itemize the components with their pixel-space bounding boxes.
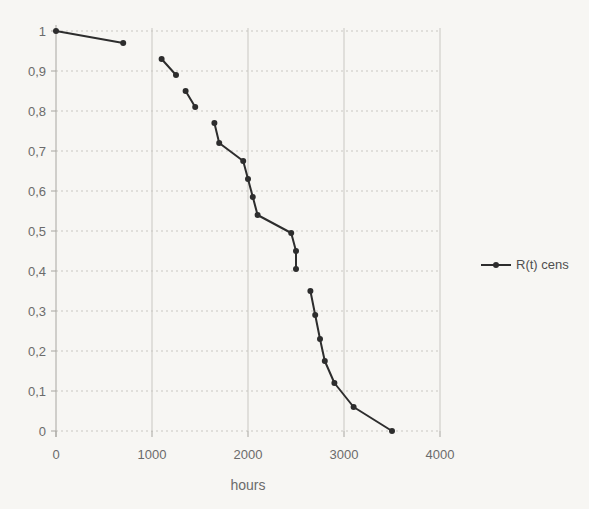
data-point-marker [53,28,59,34]
y-tick-label: 0,8 [28,104,46,119]
data-point-marker [216,140,222,146]
plot-canvas: 00,10,20,30,40,50,60,70,80,9101000200030… [0,0,589,509]
series-segment [56,31,123,43]
y-tick-label: 0,9 [28,64,46,79]
y-tick-label: 1 [39,24,46,39]
y-tick-label: 0,6 [28,184,46,199]
x-tick-label: 0 [52,447,59,462]
x-tick-label: 4000 [426,447,455,462]
data-point-marker [389,428,395,434]
gridlines [56,28,440,431]
data-point-marker [255,212,261,218]
y-tick-label: 0,4 [28,264,46,279]
y-tick-label: 0,3 [28,304,46,319]
data-point-marker [288,230,294,236]
data-point-marker [351,404,357,410]
data-point-marker [192,104,198,110]
data-point-marker [312,312,318,318]
series-segment [162,59,176,75]
data-point-marker [331,380,337,386]
reliability-chart-figure: 00,10,20,30,40,50,60,70,80,9101000200030… [0,0,589,509]
x-axis-title: hours [56,477,440,493]
data-point-marker [211,120,217,126]
y-tick-label: 0,7 [28,144,46,159]
data-point-marker [307,288,313,294]
legend: R(t) cens [481,257,569,272]
data-point-marker [245,176,251,182]
tick-labels: 00,10,20,30,40,50,60,70,80,9101000200030… [28,24,455,463]
legend-series-label: R(t) cens [516,257,569,272]
data-point-marker [240,158,246,164]
data-point-marker [317,336,323,342]
data-point-marker [120,40,126,46]
page: { "chart_data": { "type": "line", "title… [0,0,589,509]
y-tick-label: 0,2 [28,344,46,359]
data-point-marker [173,72,179,78]
data-point-marker [322,358,328,364]
y-tick-label: 0,1 [28,384,46,399]
x-tick-label: 2000 [234,447,263,462]
data-point-marker [159,56,165,62]
data-point-marker [250,194,256,200]
data-point-marker [293,266,299,272]
x-tick-label: 1000 [138,447,167,462]
x-tick-label: 3000 [330,447,359,462]
y-tick-label: 0,5 [28,224,46,239]
data-point-marker [293,248,299,254]
y-tick-label: 0 [39,424,46,439]
legend-line-marker-icon [481,260,511,270]
data-point-marker [183,88,189,94]
